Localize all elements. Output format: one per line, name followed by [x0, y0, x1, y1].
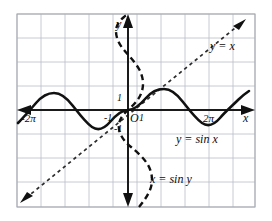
x-tick-label-neg-2pi: -2π: [21, 112, 36, 124]
x-axis-label: x: [242, 111, 249, 125]
x-tick-label-neg-1: -1: [104, 112, 112, 123]
origin-label: O: [130, 111, 139, 125]
label-y-equals-sin-x: y = sin x: [175, 132, 218, 146]
y-tick-label-1: 1: [117, 92, 122, 103]
x-tick-label-2pi: 2π: [203, 112, 215, 124]
coordinate-graph: -2π 2π -1 1 1 -1 O x y y = x y = sin x x…: [0, 0, 272, 221]
figure-root: -2π 2π -1 1 1 -1 O x y y = x y = sin x x…: [0, 0, 272, 221]
y-axis-label: y: [115, 17, 122, 31]
label-y-equals-x: y = x: [209, 39, 235, 53]
label-x-equals-sin-y: x = sin y: [149, 172, 192, 186]
x-tick-label-1: 1: [139, 112, 144, 123]
y-tick-label-neg-1: -1: [114, 123, 122, 134]
